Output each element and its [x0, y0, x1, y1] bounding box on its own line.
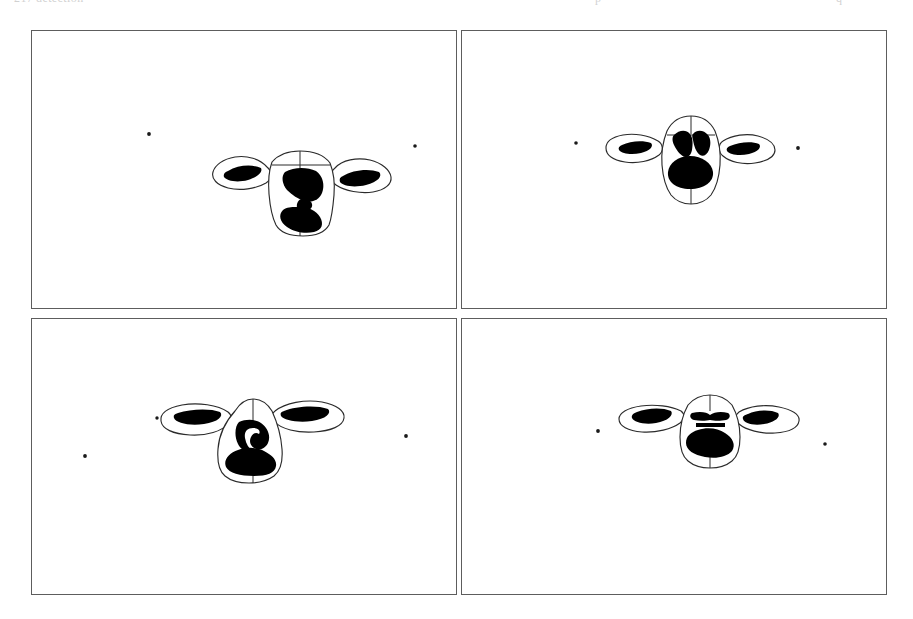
panel-a-drawing	[32, 31, 456, 308]
header-fragment-1: 217	[14, 0, 33, 5]
header-fragment-2: detection	[36, 0, 84, 5]
speck-c-2	[155, 416, 158, 419]
figure-panel-d	[461, 318, 887, 595]
cow-head-d	[619, 395, 799, 468]
panel-b-drawing	[462, 31, 886, 308]
figure-panel-grid	[31, 30, 887, 595]
header-fragment-3: p	[595, 0, 601, 5]
cow-head-b	[606, 116, 775, 204]
cow-head-a	[213, 151, 391, 236]
speck-d-2	[823, 442, 827, 446]
clipped-page-header: 217 detection p q	[0, 0, 913, 5]
speck-b-1	[574, 141, 578, 145]
panel-d-drawing	[462, 319, 886, 594]
figure-panel-c	[31, 318, 457, 595]
header-fragment-4: q	[836, 0, 842, 5]
panel-c-drawing	[32, 319, 456, 594]
figure-panel-b	[461, 30, 887, 309]
speck-d-1	[596, 429, 600, 433]
speck-b-2	[796, 146, 800, 150]
speck-c-1	[83, 454, 87, 458]
figure-panel-a	[31, 30, 457, 309]
speck-c-3	[404, 434, 408, 438]
speck-a-2	[413, 144, 417, 148]
cow-head-c	[161, 399, 344, 483]
speck-a-1	[147, 132, 151, 136]
